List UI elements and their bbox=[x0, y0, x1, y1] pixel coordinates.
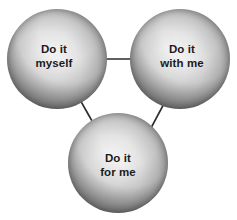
node-label-do-it-myself: Do it myself bbox=[35, 42, 72, 70]
node-do-it-with-me: Do it with me bbox=[130, 9, 230, 109]
node-do-it-for-me: Do it for me bbox=[68, 113, 168, 213]
node-label-do-it-with-me: Do it with me bbox=[160, 42, 204, 70]
node-label-do-it-for-me: Do it for me bbox=[100, 151, 136, 179]
node-do-it-myself: Do it myself bbox=[7, 9, 107, 109]
diagram-canvas: Do it myself Do it with me Do it for me bbox=[0, 0, 237, 220]
